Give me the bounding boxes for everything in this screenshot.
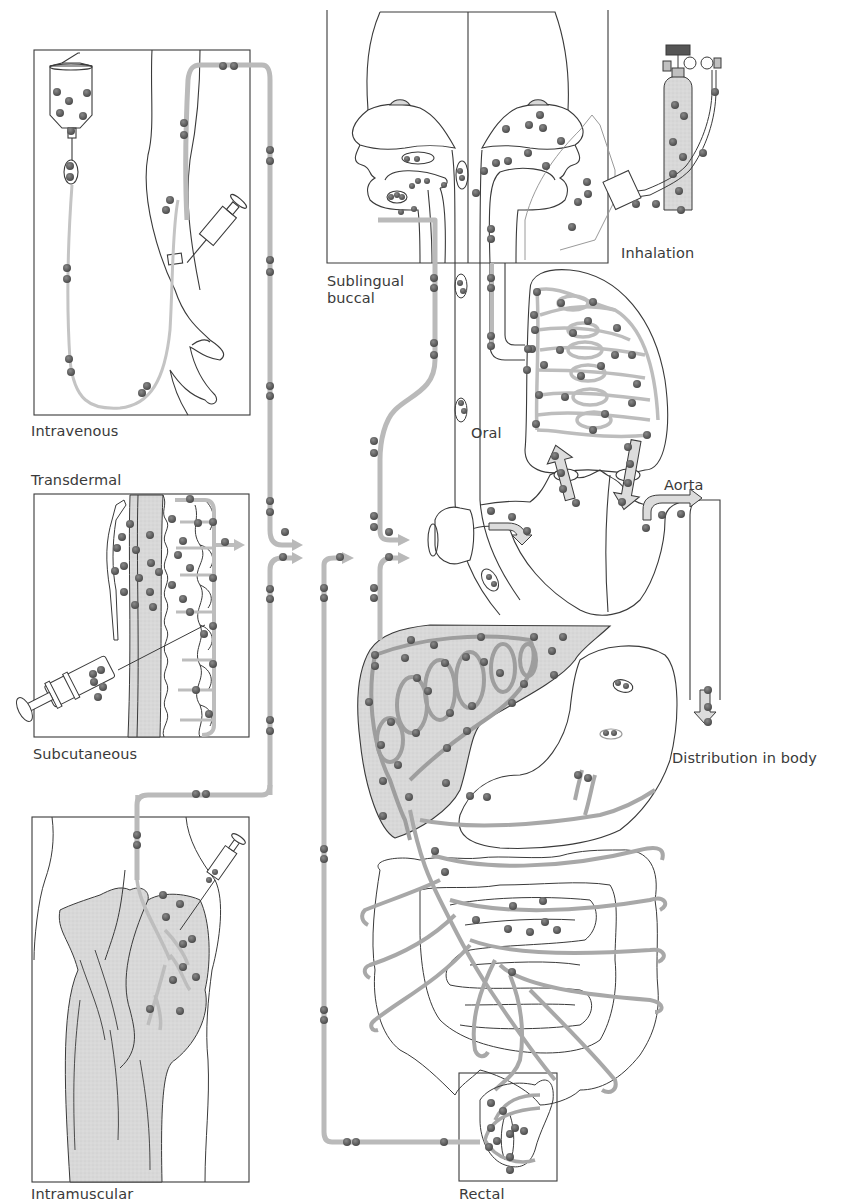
portal-vein	[380, 558, 398, 640]
label-transdermal: Transdermal	[31, 472, 121, 489]
iv-tubing	[68, 185, 178, 408]
intramuscular-illustration	[34, 795, 247, 1182]
intramuscular-vein	[137, 785, 270, 880]
portal-arrow-icon	[398, 552, 410, 564]
label-subcutaneous: Subcutaneous	[33, 746, 137, 763]
drug-administration-routes-diagram: Intravenous Transdermal Subcutaneous Int…	[0, 0, 842, 1204]
subcutaneous-vein	[270, 558, 292, 795]
inhalation-mask	[525, 115, 615, 260]
skin-cross-section	[13, 495, 245, 737]
label-distribution-in-body: Distribution in body	[672, 750, 817, 767]
diagram-canvas	[0, 0, 842, 1204]
label-sublingual-buccal: Sublingual buccal	[327, 273, 404, 307]
oxygen-cylinder	[603, 45, 721, 210]
rectum	[480, 1080, 553, 1167]
label-inhalation: Inhalation	[621, 245, 694, 262]
iv-drip-illustration	[50, 50, 248, 415]
liver	[358, 625, 610, 840]
head-cross-section	[352, 12, 583, 263]
sublingual-arrow-icon	[398, 534, 410, 546]
label-aorta: Aorta	[664, 477, 704, 494]
label-intramuscular: Intramuscular	[31, 1186, 133, 1203]
label-oral: Oral	[471, 425, 502, 442]
rectal-panel	[459, 1073, 557, 1181]
sublingual-vein	[378, 220, 435, 540]
subcutaneous-arrow-icon	[292, 552, 303, 564]
iv-arrow-icon	[292, 539, 303, 551]
iv-vein	[186, 65, 292, 545]
trachea	[490, 263, 525, 360]
label-intravenous: Intravenous	[31, 423, 118, 440]
label-rectal: Rectal	[459, 1186, 505, 1203]
